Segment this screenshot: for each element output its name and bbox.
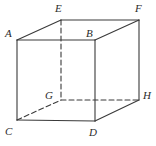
- cube-edge-BF: [95, 20, 139, 40]
- edge-layer: [17, 20, 139, 121]
- cube-wireframe: [0, 0, 156, 146]
- vertex-label-D: D: [89, 127, 97, 138]
- vertex-label-A: A: [5, 28, 12, 39]
- cube-edge-CG: [17, 100, 61, 120]
- vertex-label-H: H: [143, 90, 151, 101]
- vertex-label-G: G: [45, 90, 53, 101]
- vertex-label-C: C: [5, 126, 12, 137]
- cube-edge-CD: [17, 120, 95, 121]
- vertex-label-B: B: [86, 28, 93, 39]
- vertex-label-E: E: [55, 3, 62, 14]
- vertex-label-F: F: [135, 3, 142, 14]
- cube-edge-DH: [95, 100, 139, 121]
- cube-diagram: A B C D E F G H: [0, 0, 156, 146]
- cube-edge-AE: [17, 20, 61, 40]
